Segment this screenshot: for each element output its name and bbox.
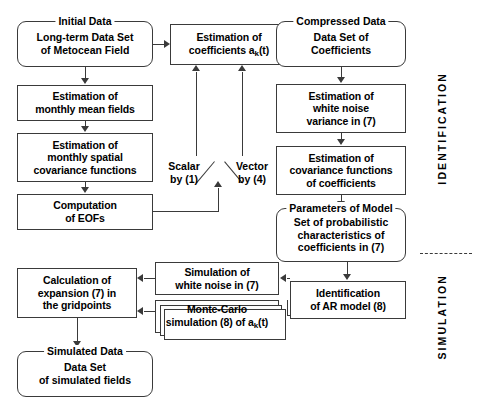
node-compressed-data: Compressed Data Data Set of Coefficients [276, 21, 406, 67]
node-monthly-mean-fields-line-1: Estimation of [52, 90, 117, 103]
node-monthly-mean-fields: Estimation of monthly mean fields [17, 85, 153, 121]
node-initial-data: Initial Data Long-term Data Set of Metoc… [17, 21, 153, 67]
node-monthly-spatial-covariance-line-2: monthly spatial [47, 151, 123, 164]
arrowhead-identification-to-white-noise [280, 274, 286, 282]
connector-branch-left-up [196, 72, 197, 156]
branch-label-vector: Vector by (4) [228, 160, 276, 185]
branch-label-scalar-line-2: by (1) [170, 173, 198, 185]
branch-label-vector-line-1: Vector [236, 160, 268, 172]
arrowhead-monte-carlo-to-calculation [137, 307, 143, 315]
node-covariance-functions-of-coefficients-line-3: of coefficients [306, 177, 376, 190]
node-initial-data-line-2: of Metocean Field [41, 44, 130, 57]
connector-identification-to-monte-carlo-v [287, 300, 288, 316]
node-monte-carlo-simulation-line-2: simulation (8) of ak(t) [166, 316, 269, 331]
node-white-noise-variance: Estimation of white noise variance in (7… [276, 84, 406, 133]
arrowhead-parameters-to-identification [343, 274, 351, 280]
node-simulated-data-line-1: Data Set [64, 361, 106, 374]
node-covariance-functions-of-coefficients-line-2: covariance functions [289, 164, 392, 177]
connector-monte-carlo-to-calculation [144, 311, 155, 312]
phase-divider [420, 253, 472, 254]
node-parameters-of-model-line-3: coefficients in (7) [298, 241, 384, 254]
node-computation-of-eofs-line-2: of EOFs [65, 212, 105, 225]
node-covariance-functions-of-coefficients-line-1: Estimation of [308, 152, 373, 165]
arrowhead-branch-right-into-coefficients [238, 65, 246, 71]
branch-label-vector-line-2: by (4) [238, 173, 266, 185]
node-compressed-data-line-1: Data Set of [314, 31, 369, 44]
node-estimation-of-coefficients-line-2: coefficients ak(t) [189, 44, 269, 59]
node-compressed-data-line-2: Coefficients [311, 44, 371, 57]
node-estimation-of-coefficients: Estimation of coefficients ak(t) [170, 24, 288, 65]
node-parameters-of-model-line-1: Set of probabilistic [294, 216, 389, 229]
connector-calculation-to-simulated [77, 318, 78, 342]
node-monthly-spatial-covariance-line-1: Estimation of [52, 139, 117, 152]
node-initial-data-legend: Initial Data [55, 15, 114, 27]
branch-label-scalar: Scalar by (1) [160, 160, 208, 185]
node-identification-of-ar-model: Identification of AR model (8) [290, 281, 406, 319]
connector-eofs-to-branch-vertical [218, 188, 219, 211]
arrowhead-white-noise-to-calculation [137, 274, 143, 282]
flowchart-diagram: Initial Data Long-term Data Set of Metoc… [0, 0, 477, 415]
node-simulated-data-line-2: of simulated fields [39, 374, 131, 387]
arrowhead-monthly-mean-to-spatial [81, 126, 89, 132]
node-simulated-data-legend: Simulated Data [44, 345, 126, 357]
arrowhead-branch-apex [214, 181, 222, 187]
arrowhead-initial-to-monthly-mean [81, 78, 89, 84]
node-monte-carlo-simulation: Monte-Carlo simulation (8) of ak(t) [155, 300, 279, 333]
arrowhead-branch-left-into-coefficients [192, 65, 200, 71]
node-monthly-spatial-covariance-line-3: covariance functions [33, 164, 136, 177]
node-calculation-of-expansion-line-2: expansion (7) in [38, 287, 116, 300]
node-compressed-data-legend: Compressed Data [293, 15, 388, 27]
node-identification-of-ar-model-line-1: Identification [316, 287, 380, 300]
node-covariance-functions-of-coefficients: Estimation of covariance functions of co… [276, 146, 406, 195]
node-calculation-of-expansion-line-3: the gridpoints [43, 299, 112, 312]
connector-branch-right-up [242, 72, 243, 156]
connector-identification-to-white-noise-v [287, 278, 288, 279]
node-white-noise-variance-line-3: variance in (7) [306, 115, 375, 128]
node-parameters-of-model-legend: Parameters of Model [286, 202, 395, 214]
node-estimation-of-coefficients-line-1: Estimation of [196, 31, 261, 44]
node-simulation-of-white-noise: Simulation of white noise in (7) [155, 262, 279, 295]
node-monthly-spatial-covariance: Estimation of monthly spatial covariance… [17, 133, 153, 182]
node-computation-of-eofs-line-1: Computation [53, 199, 117, 212]
node-simulation-of-white-noise-line-1: Simulation of [184, 266, 249, 279]
node-computation-of-eofs: Computation of EOFs [17, 194, 153, 230]
arrowhead-variance-to-covariance [337, 139, 345, 145]
node-identification-of-ar-model-line-2: of AR model (8) [310, 300, 386, 313]
node-calculation-of-expansion: Calculation of expansion (7) in the grid… [17, 268, 137, 318]
node-simulation-of-white-noise-line-2: white noise in (7) [175, 279, 258, 292]
phase-label-identification: IDENTIFICATION [436, 72, 448, 185]
node-white-noise-variance-line-1: Estimation of [308, 90, 373, 103]
node-monte-carlo-simulation-line-1: Monte-Carlo [187, 303, 247, 316]
node-calculation-of-expansion-line-1: Calculation of [43, 274, 111, 287]
node-initial-data-line-1: Long-term Data Set [37, 31, 134, 44]
connector-white-noise-to-calculation [144, 278, 155, 279]
node-parameters-of-model-line-2: characteristics of [298, 229, 385, 242]
arrowhead-spatial-to-eofs [81, 187, 89, 193]
connector-eofs-to-branch-horizontal [153, 211, 219, 212]
arrowhead-compressed-to-variance [337, 77, 345, 83]
node-simulated-data: Simulated Data Data Set of simulated fie… [17, 351, 153, 397]
node-monthly-mean-fields-line-2: monthly mean fields [35, 103, 135, 116]
node-white-noise-variance-line-2: white noise [313, 102, 369, 115]
branch-label-scalar-line-1: Scalar [168, 160, 200, 172]
phase-label-simulation: SIMULATION [436, 274, 448, 360]
node-parameters-of-model: Parameters of Model Set of probabilistic… [276, 208, 406, 262]
